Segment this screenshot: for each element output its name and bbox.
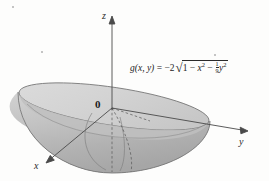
origin-label: 0: [95, 99, 101, 110]
radicand-fraction: 19: [216, 61, 219, 75]
z-axis-arrowhead: [109, 16, 115, 24]
formula-equals: =: [157, 63, 162, 73]
radicand-x-exponent: 2: [202, 60, 205, 67]
radicand-y-exponent: 2: [223, 60, 226, 67]
figure-container: z y x 0 g(x, y) = −2√1 − x2 − 19y2: [0, 0, 269, 181]
fraction-denominator: 9: [216, 67, 219, 74]
radicand-first-term: 1: [183, 62, 188, 72]
formula-radical: √1 − x2 − 19y2: [174, 60, 227, 75]
scan-speck: [41, 51, 43, 53]
formula-arguments: (x, y): [135, 63, 155, 73]
radicand: 1 − x2 − 19y2: [182, 60, 228, 75]
surface-body: [10, 73, 212, 173]
function-formula: g(x, y) = −2√1 − x2 − 19y2: [130, 60, 228, 75]
y-axis-arrowhead: [240, 127, 248, 134]
formula-coefficient: −2: [164, 63, 174, 73]
scan-speck: [12, 6, 14, 8]
scan-speck: [214, 54, 216, 56]
radicand-minus-2: −: [207, 62, 212, 72]
y-axis-label: y: [239, 137, 243, 147]
x-axis-label: x: [34, 161, 38, 171]
surface-diagram-svg: [0, 0, 269, 181]
radicand-minus-1: −: [190, 62, 195, 72]
fraction-numerator: 1: [216, 61, 219, 67]
z-axis-label: z: [102, 11, 106, 21]
